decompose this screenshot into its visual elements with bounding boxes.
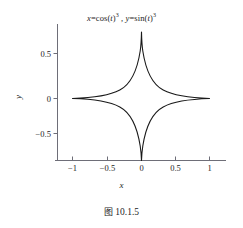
x-axis-label: x [0,180,243,190]
x-tick-label-0: 0 [127,163,157,173]
plot-area: x=cos(t)3 , y=sin(t)3 −1 −0.5 0 0.5 1 0.… [0,0,243,200]
plot-title-y-exponent: 3 [153,12,156,18]
x-tick-label-0-5: 0.5 [161,163,191,173]
x-tick-label-neg0-5: −0.5 [93,163,123,173]
plot-title-x-eq: =cos( [91,13,110,23]
x-tick-label-1: 1 [195,163,225,173]
y-tick-label-0-5: 0.5 [19,49,51,59]
x-tick-label-neg1: −1 [58,163,88,173]
y-tick-label-neg0-5: −0.5 [19,129,51,139]
y-tick-label-0: 0 [19,94,51,104]
plot-title-separator: , [119,13,126,23]
figure-caption-number: 10.1.5 [115,207,139,217]
plot-title-y-eq: =sin( [129,13,147,23]
figure-container: x=cos(t)3 , y=sin(t)3 −1 −0.5 0 0.5 1 0.… [0,0,243,228]
figure-caption: 图 10.1.5 [0,206,243,218]
plot-title: x=cos(t)3 , y=sin(t)3 [0,13,243,24]
astroid-curve [73,32,210,161]
y-axis-ticks [54,54,58,134]
y-axis-label: y [13,95,23,99]
figure-caption-label: 图 [104,207,113,217]
